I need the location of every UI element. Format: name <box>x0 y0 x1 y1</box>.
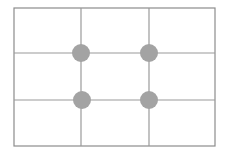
rule-of-thirds-diagram <box>0 0 229 157</box>
intersection-point-4 <box>140 91 158 109</box>
intersection-point-1 <box>72 44 90 62</box>
vertical-grid-lines <box>81 8 149 146</box>
horizontal-grid-lines <box>14 53 215 100</box>
frame-border <box>14 8 215 146</box>
intersection-point-3 <box>73 91 91 109</box>
intersection-point-2 <box>140 44 158 62</box>
intersection-points <box>72 44 158 109</box>
